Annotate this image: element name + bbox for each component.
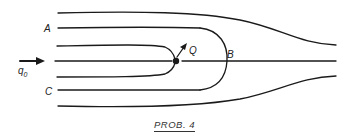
streamline-inner-lower [57,63,175,77]
label-c: C [45,87,52,97]
streamline-top [58,12,336,45]
label-b: B [227,50,234,60]
q0-subscript: 0 [24,71,28,78]
problem-title: PROB. 4 [154,119,195,132]
source-arrow-head [180,43,187,50]
label-q0: q0 [18,65,27,78]
q0-arrow-head [36,57,45,65]
streamline-inner-upper [57,45,175,59]
source-point-q [173,58,179,64]
streamline-a [58,27,200,28]
dividing-streamline [200,28,227,90]
streamline-bottom [58,76,336,107]
label-q: Q [189,46,197,56]
label-a: A [44,24,51,34]
